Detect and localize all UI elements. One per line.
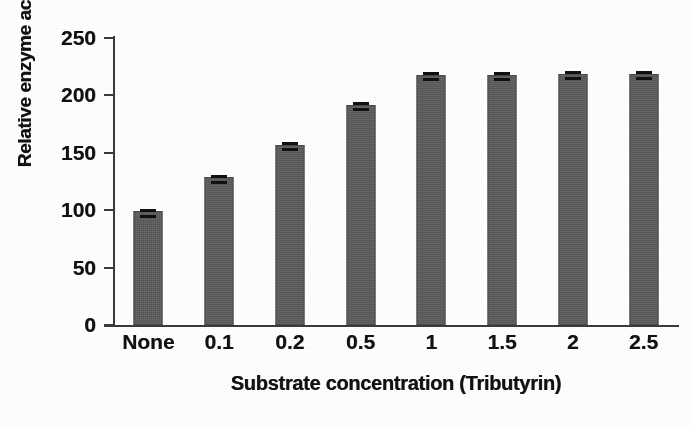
- bar: [134, 211, 163, 325]
- y-axis-tick-label: 250: [61, 26, 96, 50]
- bar-slot: [538, 38, 609, 325]
- bar-slot: [467, 38, 538, 325]
- y-axis-tick: [104, 152, 113, 154]
- bar-slot: [184, 38, 255, 325]
- error-bar: [423, 72, 439, 81]
- bar: [417, 75, 446, 325]
- error-bar: [211, 175, 227, 184]
- y-axis-title: Relative enzyme activity (%): [2, 0, 48, 216]
- y-axis-tick-label: 0: [84, 313, 96, 337]
- error-bar: [565, 71, 581, 80]
- bar: [629, 74, 658, 325]
- error-bar: [494, 72, 510, 81]
- error-bar: [140, 209, 156, 218]
- x-axis-tick-label: 2.5: [629, 330, 658, 354]
- y-axis-tick: [104, 324, 113, 326]
- error-bar: [636, 71, 652, 80]
- bar-slot: [396, 38, 467, 325]
- bar-chart-figure: Relative enzyme activity (%) 05010015020…: [0, 0, 693, 425]
- y-axis-tick: [104, 37, 113, 39]
- x-axis-tick-label: 1: [426, 330, 438, 354]
- y-axis-tick-label: 50: [73, 256, 96, 280]
- y-axis-tick: [104, 209, 113, 211]
- x-axis-tick-label: 0.1: [205, 330, 234, 354]
- x-axis-tick-label: 0.2: [275, 330, 304, 354]
- y-axis-tick-label: 150: [61, 141, 96, 165]
- bar-slot: [608, 38, 679, 325]
- y-axis-tick-label: 200: [61, 83, 96, 107]
- bar: [275, 145, 304, 325]
- y-axis-tick-label: 100: [61, 198, 96, 222]
- bar-slot: [113, 38, 184, 325]
- bar: [346, 105, 375, 325]
- plot-area: 050100150200250 None0.10.20.511.522.5: [113, 38, 679, 325]
- bar-slot: [255, 38, 326, 325]
- x-axis-title: Substrate concentration (Tributyrin): [113, 372, 679, 395]
- bar-slot: [325, 38, 396, 325]
- error-bar: [282, 142, 298, 151]
- bar-series: [113, 38, 679, 325]
- x-axis-tick-label: 2: [567, 330, 579, 354]
- bar: [205, 177, 234, 325]
- y-axis-tick: [104, 267, 113, 269]
- x-axis-line: [104, 325, 679, 327]
- x-axis-tick-label: 0.5: [346, 330, 375, 354]
- bar: [558, 74, 587, 325]
- bar: [488, 75, 517, 325]
- y-axis-tick: [104, 94, 113, 96]
- error-bar: [353, 102, 369, 111]
- x-axis-tick-label: 1.5: [488, 330, 517, 354]
- x-axis-tick-label: None: [122, 330, 175, 354]
